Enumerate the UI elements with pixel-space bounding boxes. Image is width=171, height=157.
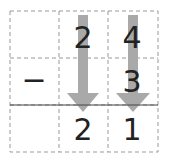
minuend-tens: 2 xyxy=(63,23,103,53)
subtrahend-ones: 3 xyxy=(112,67,152,97)
result-tens: 2 xyxy=(63,115,103,145)
result-ones: 1 xyxy=(112,115,152,145)
operator-minus: − xyxy=(14,65,54,95)
minuend-ones: 4 xyxy=(112,23,152,53)
